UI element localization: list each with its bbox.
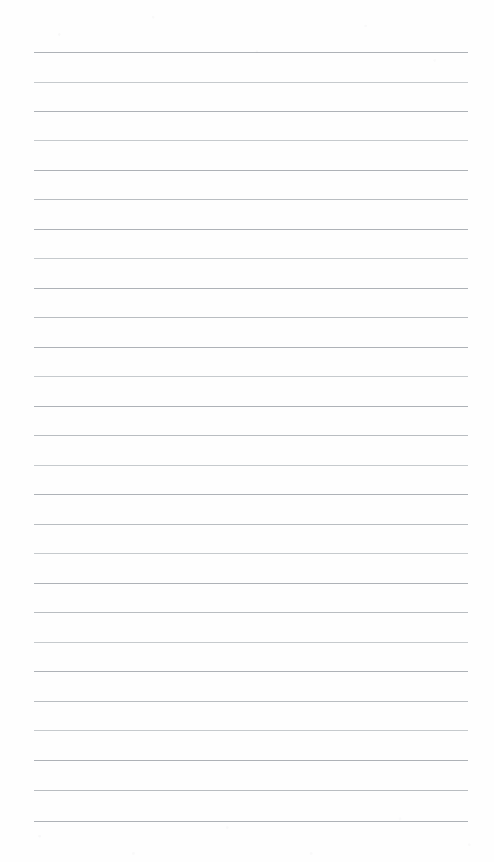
rule-line — [34, 288, 468, 289]
rule-line — [34, 111, 468, 112]
rule-line — [34, 642, 468, 643]
rule-line — [34, 82, 468, 83]
rule-line — [34, 376, 468, 377]
rule-line — [34, 760, 468, 761]
rule-line — [34, 553, 468, 554]
rule-line — [34, 494, 468, 495]
rule-line — [34, 821, 468, 822]
notepad-page — [0, 0, 494, 862]
rule-line — [34, 612, 468, 613]
rule-line-group — [0, 0, 494, 862]
rule-line — [34, 317, 468, 318]
rule-line — [34, 465, 468, 466]
rule-line — [34, 347, 468, 348]
rule-line — [34, 583, 468, 584]
rule-line — [34, 435, 468, 436]
rule-line — [34, 730, 468, 731]
rule-line — [34, 199, 468, 200]
rule-line — [34, 701, 468, 702]
rule-line — [34, 229, 468, 230]
rule-line — [34, 258, 468, 259]
rule-line — [34, 52, 468, 53]
rule-line — [34, 524, 468, 525]
rule-line — [34, 406, 468, 407]
rule-line — [34, 671, 468, 672]
rule-line — [34, 790, 468, 791]
rule-line — [34, 140, 468, 141]
rule-line — [34, 170, 468, 171]
